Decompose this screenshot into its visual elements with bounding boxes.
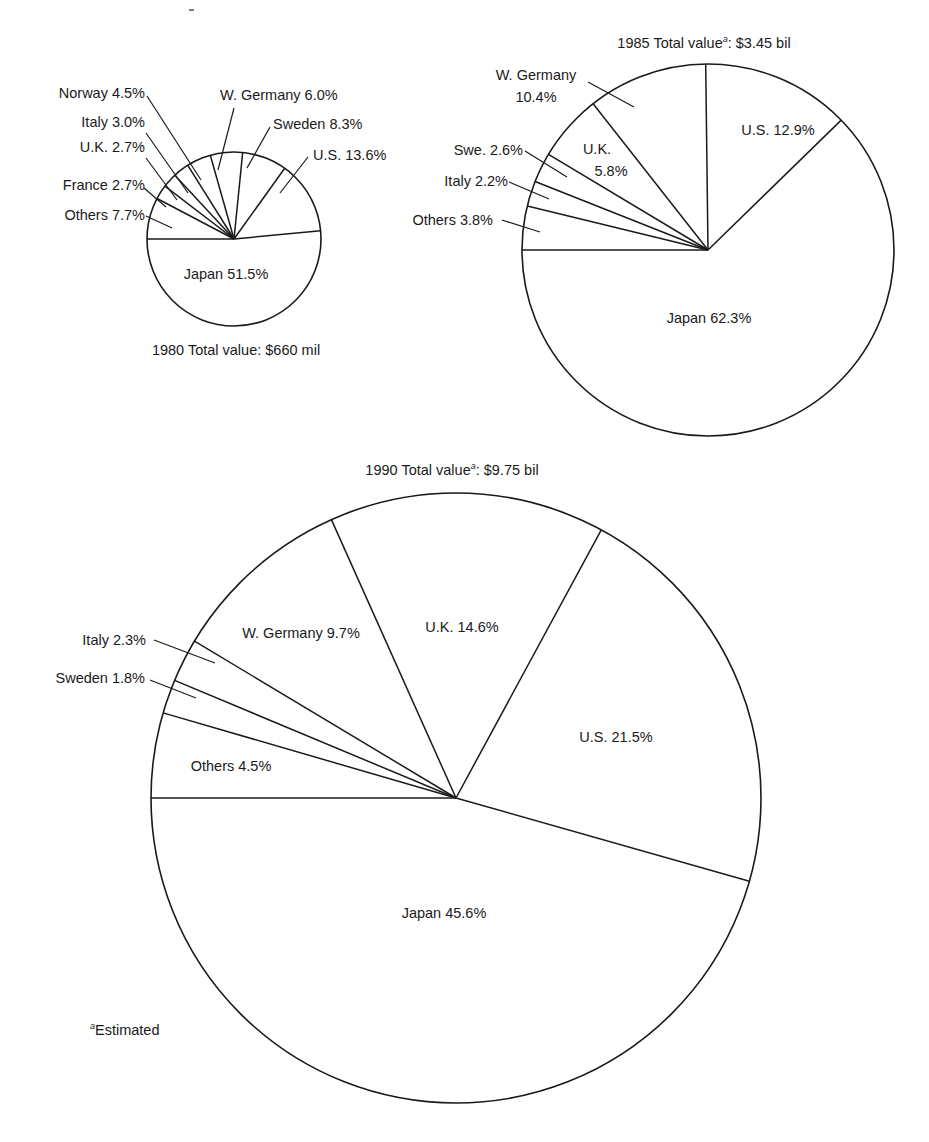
slice-label-w-germany-6-0: W. Germany 6.0%: [220, 87, 338, 103]
slice-label-5-8: 5.8%: [594, 163, 627, 179]
slice-label-japan-51-5: Japan 51.5%: [184, 266, 269, 282]
pie-chart-figure: Others 7.7%France 2.7%U.K. 2.7%Italy 3.0…: [0, 0, 929, 1142]
slice-label-u-k-14-6: U.K. 14.6%: [425, 619, 498, 635]
pie-1985: Others 3.8%Italy 2.2%Swe. 2.6%U.K.5.8%W.…: [412, 34, 894, 436]
slice-label-japan-45-6: Japan 45.6%: [402, 905, 487, 921]
slice-label-u-k-2-7: U.K. 2.7%: [80, 139, 145, 155]
slice-label-10-4: 10.4%: [515, 89, 556, 105]
pie-title-1985: 1985 Total valuea: $3.45 bil: [617, 34, 790, 51]
slice-label-others-7-7: Others 7.7%: [64, 207, 145, 223]
slice-label-u-s-21-5: U.S. 21.5%: [579, 729, 652, 745]
pie-title-1980: 1980 Total value: $660 mil: [152, 342, 320, 358]
footnote-text: Estimated: [95, 1022, 159, 1038]
slice-label-u-k: U.K.: [583, 141, 611, 157]
slice-label-swe-2-6: Swe. 2.6%: [454, 142, 523, 158]
pie-1990: Others 4.5%Sweden 1.8%Italy 2.3%W. Germa…: [56, 461, 761, 1103]
footnote-estimated: aEstimated: [90, 1021, 160, 1038]
slice-label-others-4-5: Others 4.5%: [191, 758, 272, 774]
slice-label-u-s-13-6: U.S. 13.6%: [313, 147, 386, 163]
slice-label-italy-2-3: Italy 2.3%: [82, 632, 146, 648]
pie-title-1990: 1990 Total valuea: $9.75 bil: [365, 461, 538, 478]
slice-label-others-3-8: Others 3.8%: [412, 212, 493, 228]
slice-label-w-germany: W. Germany: [496, 67, 577, 83]
slice-label-japan-62-3: Japan 62.3%: [667, 310, 752, 326]
slice-label-sweden-1-8: Sweden 1.8%: [56, 670, 146, 686]
pie-1980: Others 7.7%France 2.7%U.K. 2.7%Italy 3.0…: [59, 85, 387, 358]
leader-line: [147, 96, 201, 180]
slice-label-w-germany-9-7: W. Germany 9.7%: [242, 625, 360, 641]
slice-label-france-2-7: France 2.7%: [63, 177, 145, 193]
slice-label-italy-2-2: Italy 2.2%: [444, 173, 508, 189]
slice-label-u-s-12-9: U.S. 12.9%: [741, 122, 814, 138]
slice-label-italy-3-0: Italy 3.0%: [81, 114, 145, 130]
slice-label-norway-4-5: Norway 4.5%: [59, 85, 145, 101]
slice-label-sweden-8-3: Sweden 8.3%: [273, 116, 363, 132]
